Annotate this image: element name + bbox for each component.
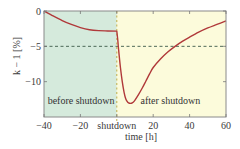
line-chart: −40−20shutdown2040600−5−10 before shutdo…	[0, 0, 240, 149]
x-tick-label: 60	[221, 120, 231, 131]
y-tick-label: −5	[30, 41, 41, 52]
x-axis-label: time [h]	[125, 131, 157, 142]
region-label: before shutdown	[48, 95, 115, 106]
y-axis-label: k − 1 [%]	[11, 37, 22, 75]
y-tick-label: 0	[36, 6, 41, 17]
x-tick-label: shutdown	[97, 120, 136, 131]
y-tick-label: −10	[25, 76, 41, 87]
region-label: after shutdown	[140, 95, 200, 106]
x-tick-label: −40	[36, 120, 52, 131]
x-tick-label: −20	[73, 120, 89, 131]
x-tick-label: 40	[185, 120, 195, 131]
x-tick-label: 20	[148, 120, 158, 131]
